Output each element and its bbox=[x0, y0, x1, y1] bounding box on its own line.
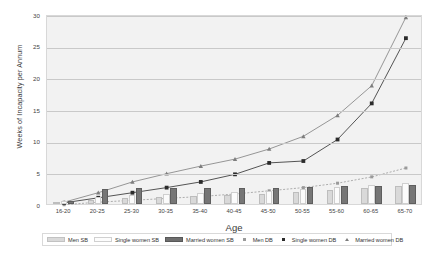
x-axis-title: Age bbox=[46, 222, 422, 233]
bar bbox=[61, 201, 67, 204]
y-tick-label: 20 bbox=[14, 75, 40, 82]
x-tick-label: 65-70 bbox=[385, 208, 425, 214]
legend-swatch-married-women-sb bbox=[165, 237, 183, 242]
grid-line bbox=[47, 111, 421, 112]
bar bbox=[402, 183, 408, 204]
legend-label: Men SB bbox=[68, 237, 88, 243]
bar bbox=[231, 192, 237, 204]
legend-marker-married-women-db bbox=[342, 237, 352, 243]
bar bbox=[239, 188, 245, 204]
legend-item-married-women-sb[interactable]: Married women SB bbox=[165, 237, 234, 243]
grid-line bbox=[47, 79, 421, 80]
data-point-marker bbox=[301, 159, 305, 163]
legend-swatch-men-sb bbox=[47, 237, 65, 242]
legend-label: Single women DB bbox=[292, 237, 336, 243]
bar bbox=[334, 187, 340, 204]
data-point-marker bbox=[199, 180, 203, 184]
y-tick-label: 25 bbox=[14, 43, 40, 50]
bar bbox=[190, 196, 196, 204]
bar bbox=[395, 186, 401, 204]
bar bbox=[170, 188, 176, 204]
bar bbox=[368, 185, 374, 204]
legend-label: Married women SB bbox=[186, 237, 234, 243]
y-tick-label: 30 bbox=[14, 12, 40, 19]
bar bbox=[259, 194, 265, 204]
data-point-marker bbox=[336, 138, 340, 142]
legend-item-men-sb[interactable]: Men SB bbox=[47, 237, 88, 243]
y-tick-label: 5 bbox=[14, 170, 40, 177]
legend-label: Single women SB bbox=[115, 237, 159, 243]
legend-marker-men-db bbox=[240, 237, 250, 243]
bar bbox=[327, 190, 333, 204]
data-point-marker bbox=[404, 36, 408, 40]
bar bbox=[224, 195, 230, 204]
line-path bbox=[64, 38, 406, 203]
bar bbox=[122, 198, 128, 204]
y-tick-label: 0 bbox=[14, 202, 40, 209]
legend-item-single-women-db[interactable]: Single women DB bbox=[279, 237, 336, 243]
legend-swatch-single-women-sb bbox=[94, 237, 112, 242]
grid-line bbox=[47, 174, 421, 175]
bar bbox=[273, 188, 279, 204]
bar bbox=[409, 185, 415, 204]
data-point-marker bbox=[301, 134, 305, 138]
chart-legend: Men SB Single women SB Married women SB … bbox=[42, 233, 392, 246]
y-tick-label: 15 bbox=[14, 107, 40, 114]
legend-item-married-women-db[interactable]: Married women DB bbox=[342, 237, 403, 243]
bar bbox=[95, 197, 101, 204]
chart-container: Weeks of Incapacity per Annum 0510152025… bbox=[0, 0, 432, 255]
legend-label: Men DB bbox=[253, 237, 273, 243]
bar bbox=[102, 189, 108, 204]
grid-line bbox=[47, 16, 421, 17]
bar bbox=[293, 192, 299, 204]
bar bbox=[156, 197, 162, 204]
bar bbox=[88, 200, 94, 204]
data-point-marker bbox=[267, 161, 271, 165]
data-point-marker bbox=[404, 167, 407, 170]
bar bbox=[266, 191, 272, 204]
data-point-marker bbox=[336, 182, 339, 185]
data-point-marker bbox=[370, 175, 373, 178]
legend-item-men-db[interactable]: Men DB bbox=[240, 237, 273, 243]
data-point-marker bbox=[370, 102, 374, 106]
bar bbox=[53, 202, 59, 204]
grid-line bbox=[47, 143, 421, 144]
legend-label: Married women DB bbox=[355, 237, 403, 243]
bar bbox=[361, 188, 367, 204]
y-tick-label: 10 bbox=[14, 138, 40, 145]
grid-line bbox=[47, 48, 421, 49]
bar bbox=[204, 188, 210, 204]
bar bbox=[197, 193, 203, 204]
legend-marker-single-women-db bbox=[279, 237, 289, 243]
bar bbox=[375, 186, 381, 204]
bar bbox=[341, 186, 347, 204]
data-point-marker bbox=[165, 186, 169, 190]
bar bbox=[307, 187, 313, 204]
bar bbox=[136, 188, 142, 204]
plot-area bbox=[46, 15, 422, 205]
legend-item-single-women-sb[interactable]: Single women SB bbox=[94, 237, 159, 243]
bar bbox=[163, 194, 169, 204]
bar bbox=[129, 195, 135, 205]
bar bbox=[68, 201, 74, 204]
data-point-marker bbox=[370, 83, 374, 87]
bar bbox=[300, 189, 306, 204]
